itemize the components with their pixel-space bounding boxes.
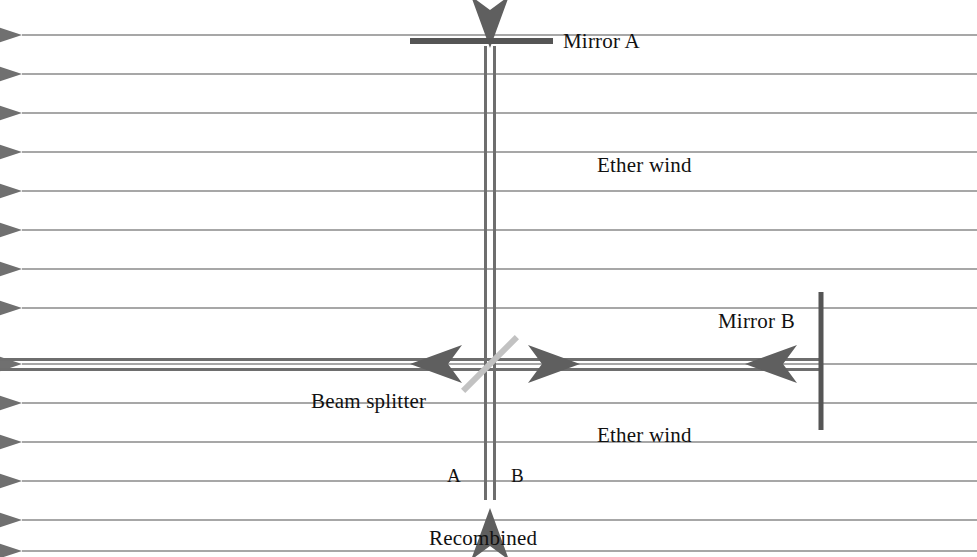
- label-mirror-b: Mirror B: [718, 311, 795, 332]
- ether-wind-line: [0, 388, 977, 418]
- ether-wind-streamlines: [0, 20, 977, 557]
- vertical-arm-beam: [471, 0, 509, 370]
- ether-wind-line: [0, 59, 977, 89]
- label-ether-wind-top: Ether wind: [597, 155, 692, 176]
- ether-wind-line: [0, 254, 977, 284]
- ether-wind-line: [0, 427, 977, 457]
- mirror-a: [410, 38, 553, 44]
- ether-wind-line: [0, 137, 977, 167]
- label-beam-a: A: [447, 466, 461, 485]
- ether-wind-line: [0, 98, 977, 128]
- ether-wind-line: [0, 215, 977, 245]
- label-ether-wind-bottom: Ether wind: [597, 425, 692, 446]
- ether-wind-line: [0, 176, 977, 206]
- diagram-canvas: [0, 0, 977, 557]
- ether-wind-line: [0, 466, 977, 496]
- ether-wind-line: [0, 293, 977, 323]
- mirror-b: [819, 292, 824, 430]
- label-recombined: Recombined: [429, 528, 537, 549]
- label-mirror-a: Mirror A: [563, 31, 640, 52]
- label-beam-splitter: Beam splitter: [311, 391, 426, 412]
- michelson-interferometer-diagram: Mirror A Mirror B Ether wind Ether wind …: [0, 0, 977, 557]
- label-beam-b: B: [511, 466, 524, 485]
